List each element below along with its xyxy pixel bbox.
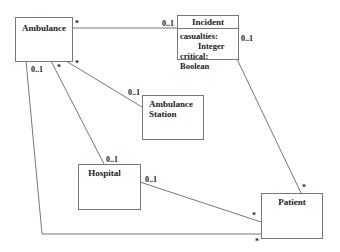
class-incident[interactable]: Incident casualties: Integer critical: B… <box>177 15 239 60</box>
class-patient[interactable]: Patient <box>261 193 323 239</box>
class-name: Hospital <box>79 165 140 178</box>
class-name-line1: Ambulance <box>149 99 203 109</box>
class-hospital[interactable]: Hospital <box>78 164 141 210</box>
multiplicity-ambulance-incident-incident: 0..1 <box>162 20 174 28</box>
multiplicity-hospital-patient-hospital: 0..1 <box>145 176 157 184</box>
class-name: Patient <box>262 194 322 207</box>
multiplicity-ambulance-hospital-ambulance: * <box>57 64 61 72</box>
class-ambulance-station[interactable]: Ambulance Station <box>142 95 204 140</box>
attribute-list: casualties: Integer critical: Boolean <box>178 28 238 71</box>
edge-incident-patient <box>236 57 301 193</box>
multiplicity-ambulance-station-station: 0..1 <box>128 89 140 97</box>
multiplicity-ambulance-hospital-hospital: 0..1 <box>106 156 118 164</box>
attribute-critical: critical: Boolean <box>180 51 236 71</box>
multiplicity-ambulance-patient-ambulance: 0..1 <box>31 66 43 74</box>
attribute-casualties-type: Integer <box>180 41 236 51</box>
multiplicity-incident-patient-patient: * <box>302 184 306 192</box>
attribute-casualties: casualties: <box>180 31 236 41</box>
class-name: Incident <box>178 16 238 28</box>
edge-ambulance-hospital <box>51 61 104 164</box>
edge-ambulance-patient <box>26 61 261 234</box>
multiplicity-ambulance-station-ambulance: * <box>75 60 79 68</box>
multiplicity-ambulance-patient-patient: * <box>255 238 259 246</box>
multiplicity-hospital-patient-patient: * <box>252 212 256 220</box>
class-ambulance[interactable]: Ambulance <box>15 17 73 62</box>
class-name: Ambulance <box>16 18 72 33</box>
class-name-line2: Station <box>149 109 203 119</box>
class-name: Ambulance Station <box>143 96 203 119</box>
multiplicity-ambulance-incident-ambulance: * <box>75 20 79 28</box>
edge-hospital-patient <box>140 182 261 222</box>
multiplicity-incident-patient-incident: 0..1 <box>241 35 253 43</box>
